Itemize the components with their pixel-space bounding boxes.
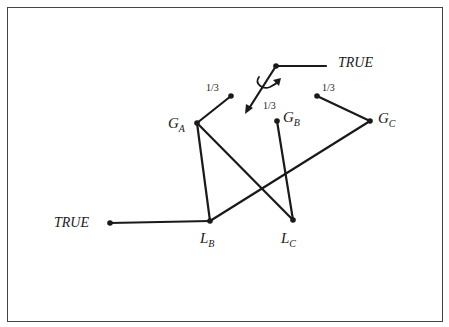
node-gc bbox=[367, 118, 373, 124]
node-lb bbox=[207, 218, 213, 224]
edge-ga-lb bbox=[197, 123, 210, 221]
node-top-true bbox=[273, 63, 279, 69]
label-gb: GB bbox=[283, 109, 300, 128]
edge-true-lb bbox=[110, 221, 210, 223]
node-gb bbox=[274, 118, 280, 124]
label-lc: LC bbox=[280, 230, 296, 249]
node-gc-input bbox=[314, 93, 320, 99]
label-gc: GC bbox=[378, 110, 396, 129]
edge-ga-input bbox=[197, 96, 231, 123]
edge-gc-input bbox=[317, 96, 370, 121]
switch-network-diagram: TRUE TRUE 1/3 1/3 1/3 GA GB GC LB LC bbox=[0, 0, 449, 327]
label-fraction-center: 1/3 bbox=[263, 100, 276, 111]
label-true-top: TRUE bbox=[338, 55, 373, 70]
label-fraction-a: 1/3 bbox=[206, 82, 219, 93]
label-lb: LB bbox=[199, 230, 214, 249]
label-ga: GA bbox=[168, 115, 186, 134]
label-true-left: TRUE bbox=[54, 215, 89, 230]
label-fraction-c: 1/3 bbox=[322, 82, 335, 93]
node-ga-input bbox=[228, 93, 234, 99]
node-ga bbox=[194, 120, 200, 126]
node-left-true bbox=[107, 220, 113, 226]
node-lc bbox=[290, 217, 296, 223]
